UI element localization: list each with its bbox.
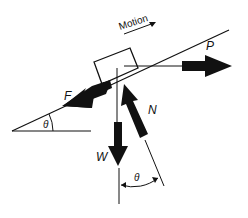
normal-angle-label: θ — [134, 172, 140, 183]
push-arrow — [182, 55, 232, 77]
incline-angle-label: θ — [43, 119, 49, 130]
friction-label: F — [64, 89, 72, 103]
normal-label: N — [148, 103, 157, 117]
normal-arrow — [121, 84, 148, 138]
incline-line — [12, 30, 229, 131]
incline-angle-arc — [49, 114, 53, 131]
motion-label: Motion — [117, 12, 149, 32]
weight-arrow — [108, 122, 128, 166]
normal-angle-arrow-right — [152, 177, 158, 183]
normal-angle-arrow-left — [121, 182, 126, 188]
weight-label: W — [96, 150, 109, 164]
push-label: P — [206, 39, 214, 53]
incline-force-diagram: θ P F N W θ Motion — [0, 0, 248, 218]
normal-angle-arc — [121, 178, 158, 187]
diagram-svg: θ P F N W θ Motion — [0, 0, 248, 218]
